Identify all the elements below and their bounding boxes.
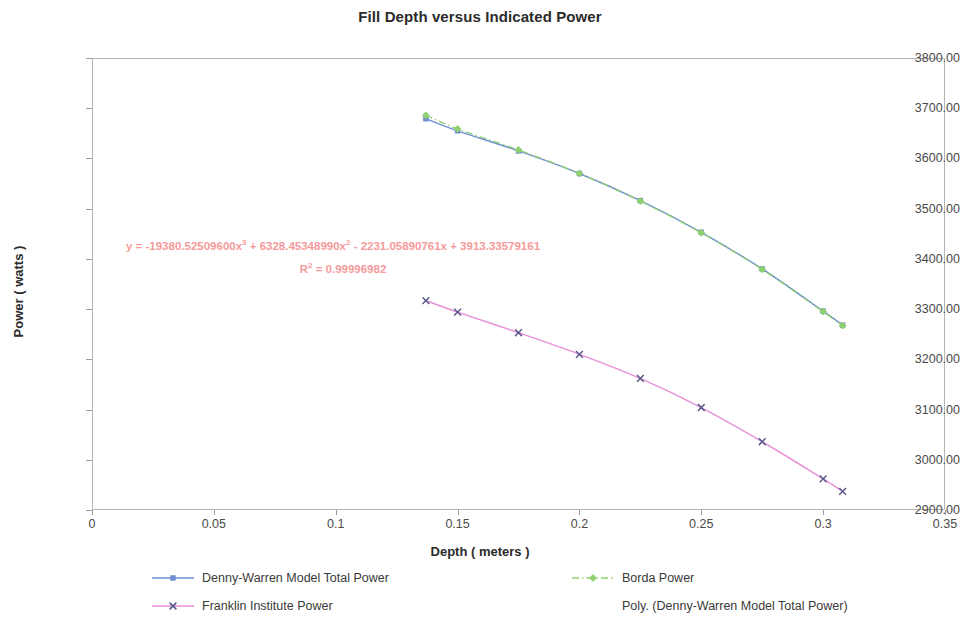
x-axis-tick-label: 0.1 xyxy=(327,517,344,531)
y-axis-tick-label: 3200.00 xyxy=(882,352,960,366)
y-axis-tick-label: 3300.00 xyxy=(882,302,960,316)
y-axis-tick-mark xyxy=(86,309,92,310)
y-axis-tick-mark xyxy=(86,259,92,260)
x-axis-tick-mark xyxy=(701,510,702,515)
x-axis-tick-label: 0.15 xyxy=(445,517,469,531)
y-axis-tick-label: 3700.00 xyxy=(882,101,960,115)
equation-text-part2: + 6328.45348990x xyxy=(247,240,346,252)
y-axis-tick-label: 3400.00 xyxy=(882,252,960,266)
x-axis-title: Depth ( meters ) xyxy=(0,544,960,559)
legend-key-swatch xyxy=(570,571,616,585)
r-squared-line: R2 = 0.99996982 xyxy=(118,256,678,279)
data-point-marker-square xyxy=(171,576,175,580)
y-axis-tick-mark xyxy=(86,410,92,411)
legend-key-swatch xyxy=(150,571,196,585)
chart-legend: Denny-Warren Model Total PowerBorda Powe… xyxy=(0,568,960,626)
x-axis-tick-mark xyxy=(214,510,215,515)
x-axis-tick-label: 0.2 xyxy=(571,517,588,531)
x-axis-tick-mark xyxy=(92,510,93,515)
y-axis-tick-mark xyxy=(86,58,92,59)
x-axis-tick-label: 0.25 xyxy=(689,517,713,531)
y-axis-tick-label: 3000.00 xyxy=(882,453,960,467)
x-axis-tick-label: 0.35 xyxy=(933,517,957,531)
equation-text-part3: - 2231.05890761x + 3913.33579161 xyxy=(350,240,540,252)
x-axis-tick-label: 0 xyxy=(89,517,96,531)
x-axis-tick-mark xyxy=(945,510,946,515)
r-squared-value: = 0.99996982 xyxy=(312,263,386,275)
legend-item[interactable]: Denny-Warren Model Total Power xyxy=(150,568,389,588)
plot-area xyxy=(92,58,945,510)
legend-item[interactable]: Poly. (Denny-Warren Model Total Power) xyxy=(570,596,848,616)
x-axis-tick-label: 0.3 xyxy=(814,517,831,531)
legend-label: Poly. (Denny-Warren Model Total Power) xyxy=(622,599,848,613)
legend-label: Franklin Institute Power xyxy=(202,599,333,613)
data-point-marker-diamond xyxy=(590,575,597,582)
equation-line: y = -19380.52509600x3 + 6328.45348990x2 … xyxy=(118,233,678,256)
legend-key-swatch xyxy=(150,599,196,613)
y-axis-tick-mark xyxy=(86,359,92,360)
y-axis-tick-label: 3800.00 xyxy=(882,51,960,65)
legend-item[interactable]: Franklin Institute Power xyxy=(150,596,333,616)
x-axis-tick-mark xyxy=(336,510,337,515)
legend-label: Borda Power xyxy=(622,571,694,585)
y-axis-tick-mark xyxy=(86,460,92,461)
x-axis-tick-label: 0.05 xyxy=(202,517,226,531)
x-axis-tick-mark xyxy=(458,510,459,515)
y-axis-tick-mark xyxy=(86,108,92,109)
trendline-equation-annotation: y = -19380.52509600x3 + 6328.45348990x2 … xyxy=(118,233,678,279)
chart-container: Fill Depth versus Indicated Power 2900.0… xyxy=(0,0,960,626)
legend-key-swatch xyxy=(570,599,616,613)
equation-text-part1: y = -19380.52509600x xyxy=(126,240,242,252)
x-axis-tick-mark xyxy=(823,510,824,515)
legend-label: Denny-Warren Model Total Power xyxy=(202,571,389,585)
y-axis-tick-label: 3100.00 xyxy=(882,403,960,417)
chart-title: Fill Depth versus Indicated Power xyxy=(0,8,960,25)
y-axis-tick-label: 3500.00 xyxy=(882,202,960,216)
r-squared-symbol: R xyxy=(300,263,308,275)
x-axis-tick-mark xyxy=(579,510,580,515)
y-axis-tick-mark xyxy=(86,209,92,210)
y-axis-tick-label: 2900.00 xyxy=(882,503,960,517)
legend-item[interactable]: Borda Power xyxy=(570,568,694,588)
y-axis-title: Power ( watts ) xyxy=(11,222,26,362)
y-axis-tick-label: 3600.00 xyxy=(882,151,960,165)
y-axis-tick-mark xyxy=(86,158,92,159)
